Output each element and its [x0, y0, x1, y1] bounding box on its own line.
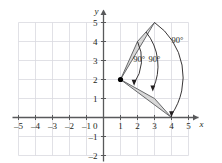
origin-label: 0	[93, 121, 98, 131]
y-tick-label-2: 2	[93, 75, 98, 85]
y-tick-label-1: 1	[93, 94, 98, 104]
x-tick-label--5: –5	[13, 121, 24, 131]
x-tick-label-3: 3	[152, 121, 157, 131]
x-axis-label: x	[199, 119, 204, 129]
rotation-figure: –5–4–3–2–11234554321–1–20xy90°90°90°	[0, 0, 222, 163]
y-tick-label--1: –1	[88, 132, 98, 142]
arc-inner-angle-label: 90°	[133, 54, 145, 64]
x-tick-label-5: 5	[186, 121, 191, 131]
x-tick-label-2: 2	[135, 121, 140, 131]
x-tick-label--3: –3	[47, 121, 58, 131]
y-tick-label-5: 5	[93, 18, 98, 28]
x-tick-label--2: –2	[64, 121, 74, 131]
y-tick-label-4: 4	[93, 37, 98, 47]
coordinate-plane-svg: –5–4–3–2–11234554321–1–20xy90°90°90°	[0, 0, 222, 163]
x-tick-label-4: 4	[169, 121, 174, 131]
arc-middle-angle-label: 90°	[149, 54, 161, 64]
x-tick-label--1: –1	[81, 121, 91, 131]
x-tick-label--4: –4	[30, 121, 41, 131]
x-tick-label-1: 1	[118, 121, 123, 131]
center-of-rotation-point	[118, 77, 123, 82]
arc-inner-arrowhead	[132, 80, 137, 86]
y-tick-label--2: –2	[88, 151, 98, 161]
y-axis-label: y	[94, 6, 99, 16]
y-tick-label-3: 3	[93, 56, 98, 66]
x-axis-arrowhead	[193, 115, 199, 121]
y-axis-arrowhead	[101, 10, 107, 16]
arc-outer-angle-label: 90°	[171, 35, 183, 45]
